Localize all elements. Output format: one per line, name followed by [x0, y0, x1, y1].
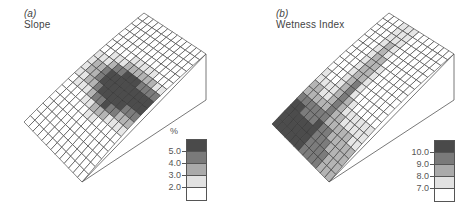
legend-swatch: [435, 177, 454, 189]
legend-tick: [182, 151, 186, 152]
panel-wetness-index: (b) Wetness Index 10.09.08.07.0: [238, 0, 476, 213]
legend-tick: [182, 163, 186, 164]
legend-swatch: [187, 164, 206, 176]
slope-legend: [186, 139, 207, 201]
legend-swatch: [187, 152, 206, 164]
legend-swatch: [187, 140, 206, 152]
legend-tick: [430, 152, 434, 153]
legend-swatch: [187, 188, 206, 200]
legend-swatch: [435, 141, 454, 153]
legend-swatch: [187, 176, 206, 188]
legend-tick-label: 8.0: [401, 171, 429, 181]
legend-tick-label: 10.0: [401, 147, 429, 157]
wetness-legend: [434, 140, 455, 202]
legend-tick: [182, 175, 186, 176]
legend-tick-label: 3.0: [153, 170, 181, 180]
legend-swatch: [435, 189, 454, 201]
legend-tick-label: 7.0: [401, 183, 429, 193]
legend-tick-label: 4.0: [153, 158, 181, 168]
legend-tick-label: 9.0: [401, 159, 429, 169]
legend-swatch: [435, 153, 454, 165]
legend-tick: [430, 164, 434, 165]
legend-unit: %: [170, 126, 178, 136]
legend-tick: [430, 188, 434, 189]
legend-tick-label: 2.0: [153, 182, 181, 192]
legend-swatch: [435, 165, 454, 177]
legend-tick: [430, 176, 434, 177]
legend-tick-label: 5.0: [153, 146, 181, 156]
panel-slope: (a) Slope % 5.04.03.02.0: [0, 0, 238, 213]
legend-tick: [182, 187, 186, 188]
